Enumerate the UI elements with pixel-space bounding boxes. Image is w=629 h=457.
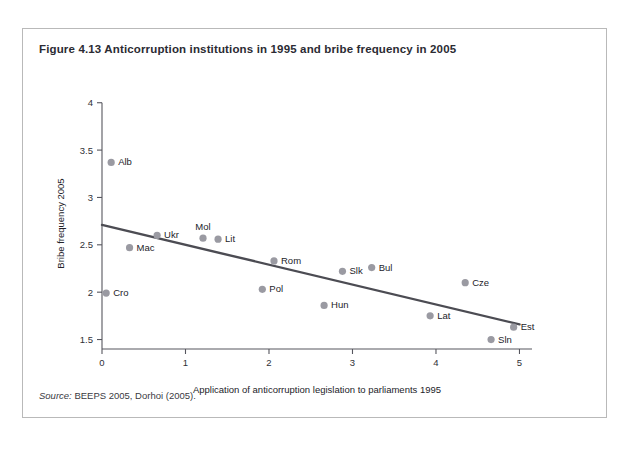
data-point-marker <box>214 236 221 243</box>
data-point-marker <box>339 268 346 275</box>
figure-card: Figure 4.13 Anticorruption institutions … <box>22 28 607 418</box>
data-point-label: Hun <box>331 299 348 310</box>
data-point-marker <box>510 324 517 331</box>
data-point-label: Lit <box>225 233 235 244</box>
y-tick-label: 3 <box>88 192 93 203</box>
data-point-label: Bul <box>379 262 393 273</box>
data-point-marker <box>103 290 110 297</box>
y-tick-label: 4 <box>88 97 93 108</box>
data-point-label: Mol <box>195 221 210 232</box>
data-point-label: Pol <box>269 283 283 294</box>
plot-svg: 1.522.533.54012345 AlbCroMacUkrMolLitPol… <box>23 29 608 419</box>
data-point-marker <box>259 286 266 293</box>
x-tick-label: 3 <box>350 357 355 368</box>
y-tick-label: 2 <box>88 287 93 298</box>
y-tick-label: 3.5 <box>80 145 93 156</box>
y-tick-label: 2.5 <box>80 239 93 250</box>
data-point-label: Mac <box>137 242 155 253</box>
data-point-marker <box>368 264 375 271</box>
x-tick-label: 1 <box>183 357 188 368</box>
data-point-label: Est <box>521 321 535 332</box>
y-axis-title: Bribe frequency 2005 <box>55 178 66 268</box>
data-point-label: Rom <box>281 255 301 266</box>
source-label: Source: <box>39 390 72 401</box>
data-point-label: Alb <box>118 156 132 167</box>
plot-axes: 1.522.533.54012345 <box>80 97 532 368</box>
data-point-label: Ukr <box>164 229 179 240</box>
data-point-label: Slk <box>349 265 362 276</box>
scatter-plot: 1.522.533.54012345 AlbCroMacUkrMolLitPol… <box>23 29 608 419</box>
data-point-marker <box>427 312 434 319</box>
x-tick-label: 2 <box>266 357 271 368</box>
data-point-marker <box>320 302 327 309</box>
data-point-label: Cze <box>472 277 489 288</box>
x-tick-label: 5 <box>517 357 522 368</box>
source-text: BEEPS 2005, Dorhoi (2005). <box>72 390 196 401</box>
data-point-marker <box>487 336 494 343</box>
data-points-group: AlbCroMacUkrMolLitPolRomHunSlkBulLatCzeS… <box>103 156 535 344</box>
data-point-marker <box>126 244 133 251</box>
x-tick-label: 4 <box>433 357 438 368</box>
data-point-marker <box>199 235 206 242</box>
data-point-marker <box>270 257 277 264</box>
data-point-marker <box>462 279 469 286</box>
data-point-label: Lat <box>437 310 451 321</box>
source-note: Source: BEEPS 2005, Dorhoi (2005). <box>39 390 196 401</box>
data-point-label: Sln <box>498 334 512 345</box>
y-tick-label: 1.5 <box>80 334 93 345</box>
x-tick-label: 0 <box>99 357 104 368</box>
data-point-label: Cro <box>113 287 128 298</box>
data-point-marker <box>108 159 115 166</box>
data-point-marker <box>154 232 161 239</box>
x-axis-title: Application of anticorruption legislatio… <box>193 384 441 395</box>
